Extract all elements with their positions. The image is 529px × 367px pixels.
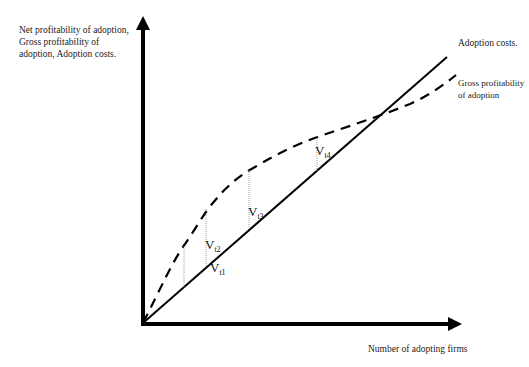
y-axis-label: Net profitability of adoption, Gross pro… bbox=[19, 24, 134, 60]
x-axis-label: Number of adopting firms bbox=[368, 343, 467, 355]
gap-label-t4: Vt4 bbox=[315, 143, 331, 160]
gross-profitability-label: Gross profitability of adoption bbox=[458, 77, 528, 101]
gap-label-t2: Vt2 bbox=[205, 237, 221, 254]
gross-profitability-curve bbox=[143, 75, 456, 323]
gap-label-t1: Vt1 bbox=[210, 260, 226, 277]
x-axis-arrow-icon bbox=[448, 317, 462, 331]
y-axis-arrow-icon bbox=[136, 16, 150, 30]
adoption-costs-label: Adoption costs. bbox=[458, 37, 518, 49]
gap-label-t3: Vt3 bbox=[248, 204, 264, 221]
adoption-costs-line bbox=[143, 57, 447, 323]
